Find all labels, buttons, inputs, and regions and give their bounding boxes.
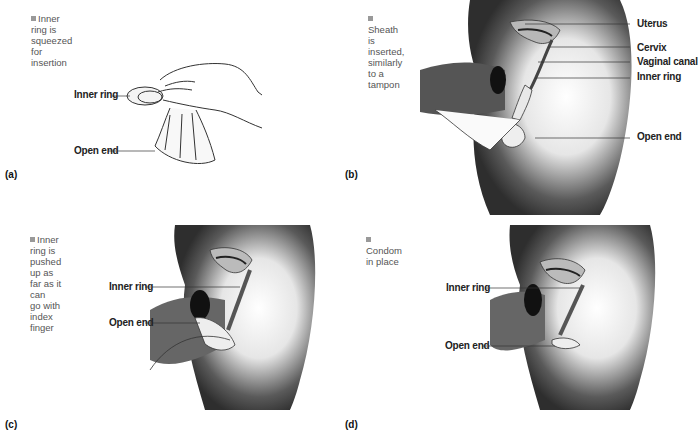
label-inner-ring: Inner ring	[446, 282, 490, 293]
bullet-icon	[31, 16, 36, 21]
label-open-end: Open end	[445, 340, 490, 351]
label-cervix: Cervix	[637, 42, 666, 53]
panel-a-note: Inner ring is squeezed for insertion	[31, 13, 72, 68]
label-uterus: Uterus	[637, 18, 667, 29]
label-open-end: Open end	[109, 317, 154, 328]
label-inner-ring: Inner ring	[74, 89, 118, 100]
label-open-end: Open end	[74, 145, 119, 156]
panel-label-d: (d)	[345, 419, 358, 430]
panel-d-anatomy-drawing	[490, 225, 655, 410]
panel-c-note: Inner ring is pushed up as far as it can…	[30, 234, 61, 333]
bullet-icon	[366, 237, 371, 242]
panel-c-anatomy-drawing	[150, 225, 315, 410]
panel-label-a: (a)	[5, 169, 17, 180]
panel-label-c: (c)	[5, 419, 17, 430]
bullet-icon	[368, 16, 373, 21]
panel-b-note: Sheath is inserted, similarly to a tampo…	[368, 13, 404, 90]
panel-b-anatomy-drawing	[420, 0, 632, 215]
label-vaginal-canal: Vaginal canal	[637, 56, 698, 67]
panel-a-hand-drawing	[127, 64, 262, 164]
panel-d-note: Condom in place	[366, 234, 402, 267]
bullet-icon	[30, 237, 35, 242]
label-inner-ring: Inner ring	[109, 281, 153, 292]
label-open-end: Open end	[637, 131, 682, 142]
panel-label-b: (b)	[345, 169, 358, 180]
label-inner-ring: Inner ring	[637, 71, 681, 82]
